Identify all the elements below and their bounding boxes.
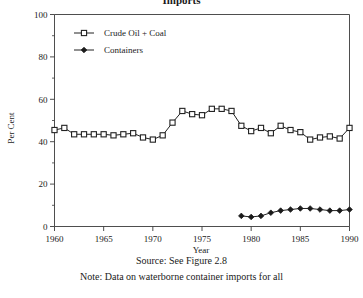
data-point-marker xyxy=(150,137,155,142)
data-point-marker xyxy=(317,207,323,213)
data-point-marker xyxy=(347,207,353,213)
x-tick-label: 1985 xyxy=(291,234,310,244)
y-tick-label: 80 xyxy=(39,52,49,62)
data-point-marker xyxy=(81,30,86,35)
data-series-1 xyxy=(52,106,352,142)
x-tick-label: 1980 xyxy=(242,234,261,244)
data-point-marker xyxy=(91,132,96,137)
data-point-marker xyxy=(121,132,126,137)
data-point-marker xyxy=(278,208,284,214)
data-point-marker xyxy=(249,129,254,134)
data-point-marker xyxy=(268,131,273,136)
data-point-marker xyxy=(248,214,254,220)
data-point-marker xyxy=(140,135,145,140)
figure-container: Imports 020406080100 1960196519701975198… xyxy=(0,0,363,298)
data-point-marker xyxy=(337,208,343,214)
series-line xyxy=(241,208,349,216)
y-axis-title: Per Cent xyxy=(6,112,16,144)
y-axis: 020406080100 xyxy=(34,10,55,232)
data-point-marker xyxy=(180,108,185,113)
source-caption: Source: See Figure 2.8 xyxy=(0,255,363,266)
data-point-marker xyxy=(62,125,67,130)
data-point-marker xyxy=(298,130,303,135)
x-tick-label: 1970 xyxy=(144,234,163,244)
y-tick-label: 60 xyxy=(39,95,49,105)
data-point-marker xyxy=(170,120,175,125)
x-axis-title: Year xyxy=(193,245,210,255)
data-point-marker xyxy=(190,112,195,117)
data-point-marker xyxy=(52,127,57,132)
legend-label: Crude Oil + Coal xyxy=(104,28,167,38)
data-point-marker xyxy=(219,106,224,111)
line-chart: 020406080100 196019651970197519801985199… xyxy=(0,0,363,298)
data-point-marker xyxy=(239,213,245,219)
data-point-marker xyxy=(288,207,294,213)
data-point-marker xyxy=(160,133,165,138)
x-tick-label: 1960 xyxy=(46,234,65,244)
data-point-marker xyxy=(229,108,234,113)
y-tick-label: 0 xyxy=(43,222,48,232)
legend-label: Containers xyxy=(104,45,143,55)
data-point-marker xyxy=(327,208,333,214)
data-point-marker xyxy=(317,135,322,140)
y-tick-label: 20 xyxy=(39,179,49,189)
y-tick-label: 100 xyxy=(34,10,48,20)
data-point-marker xyxy=(81,132,86,137)
data-point-marker xyxy=(72,132,77,137)
data-point-marker xyxy=(268,210,274,216)
x-tick-label: 1975 xyxy=(193,234,212,244)
legend-item-1: Crude Oil + Coal xyxy=(74,28,167,38)
data-point-marker xyxy=(288,127,293,132)
data-point-marker xyxy=(307,206,313,212)
data-point-marker xyxy=(347,125,352,130)
data-series-group xyxy=(52,106,352,220)
legend-item-2: Containers xyxy=(74,45,143,55)
data-point-marker xyxy=(131,131,136,136)
data-point-marker xyxy=(258,213,264,219)
plot-frame xyxy=(55,15,350,227)
data-point-marker xyxy=(101,132,106,137)
x-tick-label: 1990 xyxy=(341,234,360,244)
data-point-marker xyxy=(209,106,214,111)
data-point-marker xyxy=(337,136,342,141)
data-point-marker xyxy=(298,206,304,212)
data-series-2 xyxy=(239,206,353,220)
x-tick-label: 1965 xyxy=(95,234,114,244)
data-point-marker xyxy=(278,123,283,128)
data-point-marker xyxy=(308,137,313,142)
data-point-marker xyxy=(327,134,332,139)
data-point-marker xyxy=(239,123,244,128)
note-caption: Note: Data on waterborne container impor… xyxy=(0,271,363,282)
x-axis: 1960196519701975198019851990 xyxy=(46,227,360,244)
data-point-marker xyxy=(81,47,87,53)
data-point-marker xyxy=(111,133,116,138)
data-point-marker xyxy=(199,113,204,118)
data-point-marker xyxy=(258,125,263,130)
chart-legend: Crude Oil + CoalContainers xyxy=(74,28,167,55)
y-tick-label: 40 xyxy=(39,137,49,147)
